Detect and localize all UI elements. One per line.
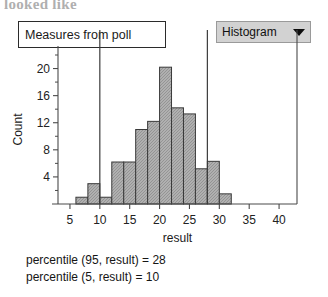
histogram-bar	[172, 108, 184, 204]
histogram-bar	[207, 161, 219, 204]
histogram-bar	[88, 184, 100, 204]
histogram-bar	[136, 130, 148, 205]
x-tick-label: 10	[93, 213, 107, 227]
histogram-bar	[160, 67, 172, 204]
histogram-bar	[219, 194, 231, 204]
y-tick-label: 4	[43, 170, 50, 184]
y-tick-label: 8	[43, 143, 50, 157]
x-tick-label: 40	[272, 213, 286, 227]
histogram-bar	[195, 169, 207, 204]
x-tick-label: 20	[153, 213, 167, 227]
histogram-bar	[183, 114, 195, 204]
percentile-annotations: percentile (95, result) = 28 percentile …	[26, 252, 326, 286]
histogram-bar	[112, 162, 124, 204]
chart-group: 51015202530354048121620resultCount	[11, 30, 297, 245]
histogram-bar	[100, 197, 112, 204]
annotation-line: percentile (5, result) = 10	[26, 269, 326, 286]
x-tick-label: 35	[243, 213, 257, 227]
x-tick-label: 5	[67, 213, 74, 227]
x-axis-title: result	[163, 231, 193, 245]
x-tick-label: 15	[123, 213, 137, 227]
histogram-bar	[76, 197, 88, 204]
y-tick-label: 16	[37, 89, 51, 103]
x-tick-label: 30	[213, 213, 227, 227]
y-tick-label: 12	[37, 116, 51, 130]
histogram-bar	[148, 121, 160, 204]
annotation-line: percentile (95, result) = 28	[26, 252, 326, 269]
y-tick-label: 20	[37, 62, 51, 76]
histogram-bar	[124, 162, 136, 204]
y-axis-title: Count	[11, 113, 25, 146]
x-tick-label: 25	[183, 213, 197, 227]
screenshot-root: looked like Measures from poll Histogram…	[0, 0, 328, 297]
